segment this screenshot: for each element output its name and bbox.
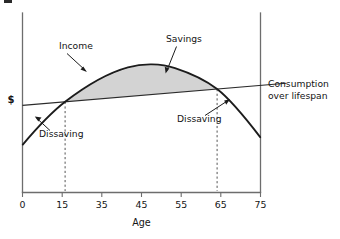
x-tick-label-15: 15 — [56, 199, 68, 210]
x-tick-label-45: 45 — [136, 199, 148, 210]
savings-label: Savings — [166, 33, 202, 44]
dissaving-left-arrowhead — [35, 116, 42, 121]
lifecycle-savings-chart: Income Savings Consumption over lifespan… — [0, 0, 340, 239]
chart-svg: Income Savings Consumption over lifespan… — [0, 0, 340, 239]
x-tick-label-35: 35 — [96, 199, 108, 210]
savings-shaded-region — [65, 65, 217, 101]
x-tick-label-0: 0 — [20, 199, 26, 210]
consumption-label-line1: Consumption — [268, 78, 329, 89]
consumption-label-line2: over lifespan — [268, 90, 328, 101]
x-tick-label-75: 75 — [255, 199, 267, 210]
x-tick-label-65: 65 — [215, 199, 227, 210]
dissaving-right-arrowhead — [224, 99, 230, 105]
dissaving-right-label: Dissaving — [177, 113, 221, 124]
x-axis-title: Age — [132, 217, 151, 228]
dissaving-left-label: Dissaving — [39, 128, 83, 139]
y-axis-dollar-label: $ — [8, 94, 15, 105]
x-tick-label-55: 55 — [175, 199, 187, 210]
income-label: Income — [59, 40, 93, 51]
